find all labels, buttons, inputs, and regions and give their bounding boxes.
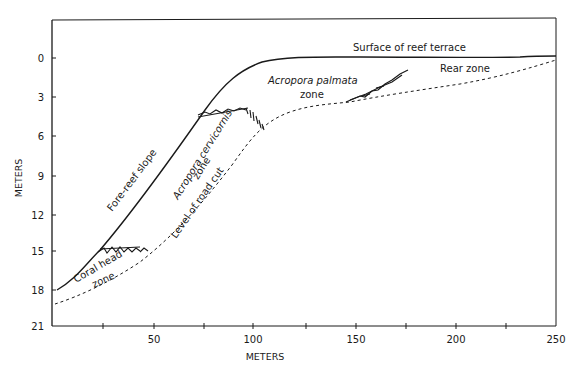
x-tick-150: 150 — [346, 334, 365, 345]
x-tick-100: 100 — [243, 334, 262, 345]
y-tick-15: 15 — [31, 246, 44, 257]
x-tick-250: 250 — [546, 334, 565, 345]
y-tick-9: 9 — [38, 171, 44, 182]
y-tick-18: 18 — [31, 285, 44, 296]
label-surface-of-reef-terrace: Surface of reef terrace — [353, 42, 466, 53]
label-acropora-palmata-zone: zone — [300, 89, 324, 100]
label-acropora-palmata: Acropora palmata — [267, 75, 358, 86]
y-tick-21: 21 — [31, 321, 44, 332]
label-fore-reef-slope: Fore-reef slope — [105, 147, 159, 213]
y-axis-title: METERS — [13, 159, 24, 198]
x-tick-200: 200 — [446, 334, 465, 345]
reef-profile-diagram: 0 3 6 9 12 15 18 21 METERS 50 100 150 20… — [0, 0, 581, 370]
cervicornis-palmata-boundary-hatch — [198, 108, 264, 130]
x-axis-title: METERS — [246, 351, 285, 362]
x-tick-50: 50 — [148, 334, 161, 345]
label-rear-zone: Rear zone — [440, 63, 490, 74]
y-tick-6: 6 — [38, 131, 44, 142]
y-tick-12: 12 — [31, 210, 44, 221]
y-axis-tick-labels: 0 3 6 9 12 15 18 21 — [31, 53, 44, 332]
y-tick-0: 0 — [38, 53, 44, 64]
y-tick-3: 3 — [38, 92, 44, 103]
coral-head-hatch — [98, 247, 148, 253]
x-axis-tick-labels: 50 100 150 200 250 — [148, 334, 566, 345]
